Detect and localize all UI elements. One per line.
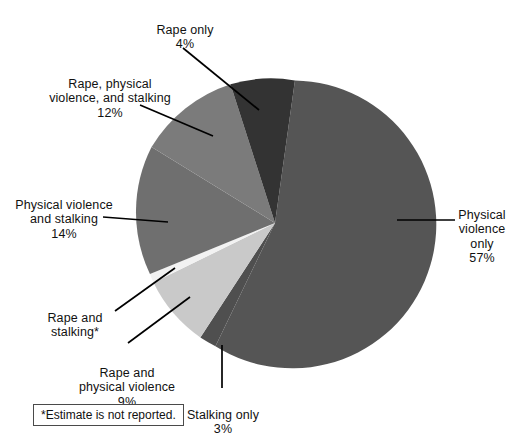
label-stalking-only: Stalking only 3% [168, 393, 278, 435]
label-physical-violence-only: Physical violence only 57% [452, 193, 512, 280]
label-stalking-only-name: Stalking only [187, 408, 259, 422]
label-rape-pv-stalking-pct: 12% [25, 106, 195, 121]
label-physical-violence-and-stalking: Physical violence and stalking 14% [2, 183, 126, 256]
label-rape-only-pct: 4% [130, 37, 240, 52]
label-pv-and-stalking-pct: 14% [2, 227, 126, 242]
label-pv-and-stalking-name: Physical violence and stalking [15, 198, 113, 227]
label-pv-only-pct: 57% [452, 251, 512, 266]
label-rape-physical-violence-and-stalking: Rape, physical violence, and stalking 12… [25, 62, 195, 135]
label-rape-and-pv-name: Rape and physical violence [79, 366, 175, 395]
label-rape-only-name: Rape only [156, 23, 213, 37]
footnote-estimate-not-reported: *Estimate is not reported. [33, 404, 184, 426]
label-rape-only: Rape only 4% [130, 8, 240, 66]
label-rape-pv-stalking-name: Rape, physical violence, and stalking [49, 77, 171, 106]
label-pv-only-name: Physical violence only [458, 208, 505, 251]
label-rape-and-stalking-name: Rape and stalking* [47, 311, 102, 340]
pie-chart-figure: Rape only 4% Rape, physical violence, an… [0, 0, 514, 435]
label-rape-and-stalking: Rape and stalking* [29, 296, 121, 354]
footnote-text: *Estimate is not reported. [41, 408, 176, 422]
label-stalking-only-pct: 3% [168, 422, 278, 435]
